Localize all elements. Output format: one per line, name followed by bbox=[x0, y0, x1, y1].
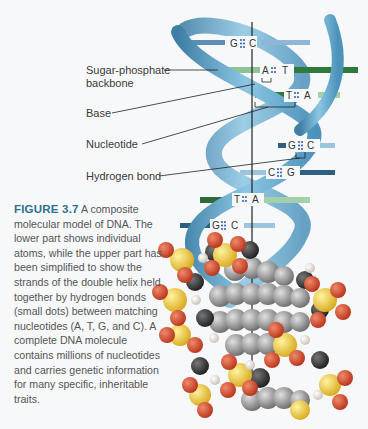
svg-text:T: T bbox=[286, 90, 292, 101]
caption-text: A composite molecular model of DNA. The … bbox=[14, 203, 162, 405]
label-line-1: Sugar-phosphate bbox=[86, 64, 170, 77]
label-hydrogen-bond: Hydrogen bond bbox=[86, 170, 161, 183]
atomic-model bbox=[152, 232, 353, 420]
svg-text:G: G bbox=[287, 167, 295, 178]
svg-text:C: C bbox=[249, 38, 256, 49]
svg-text:C: C bbox=[307, 140, 314, 151]
label-line-2: backbone bbox=[86, 77, 170, 90]
svg-text:A: A bbox=[262, 65, 269, 76]
svg-text:C: C bbox=[231, 220, 238, 231]
svg-text:C: C bbox=[268, 167, 275, 178]
figure-caption: FIGURE 3.7 A composite molecular model o… bbox=[14, 202, 164, 406]
figure-number: FIGURE 3.7 bbox=[14, 203, 79, 215]
label-sugar-phosphate-backbone: Sugar-phosphate backbone bbox=[86, 64, 170, 90]
svg-text:T: T bbox=[234, 194, 240, 205]
svg-text:G: G bbox=[212, 220, 220, 231]
svg-text:A: A bbox=[304, 90, 311, 101]
svg-text:G: G bbox=[288, 140, 296, 151]
svg-text:A: A bbox=[252, 194, 259, 205]
svg-text:G: G bbox=[230, 38, 238, 49]
label-base: Base bbox=[86, 107, 111, 120]
label-nucleotide: Nucleotide bbox=[86, 138, 138, 151]
svg-text:T: T bbox=[282, 65, 288, 76]
